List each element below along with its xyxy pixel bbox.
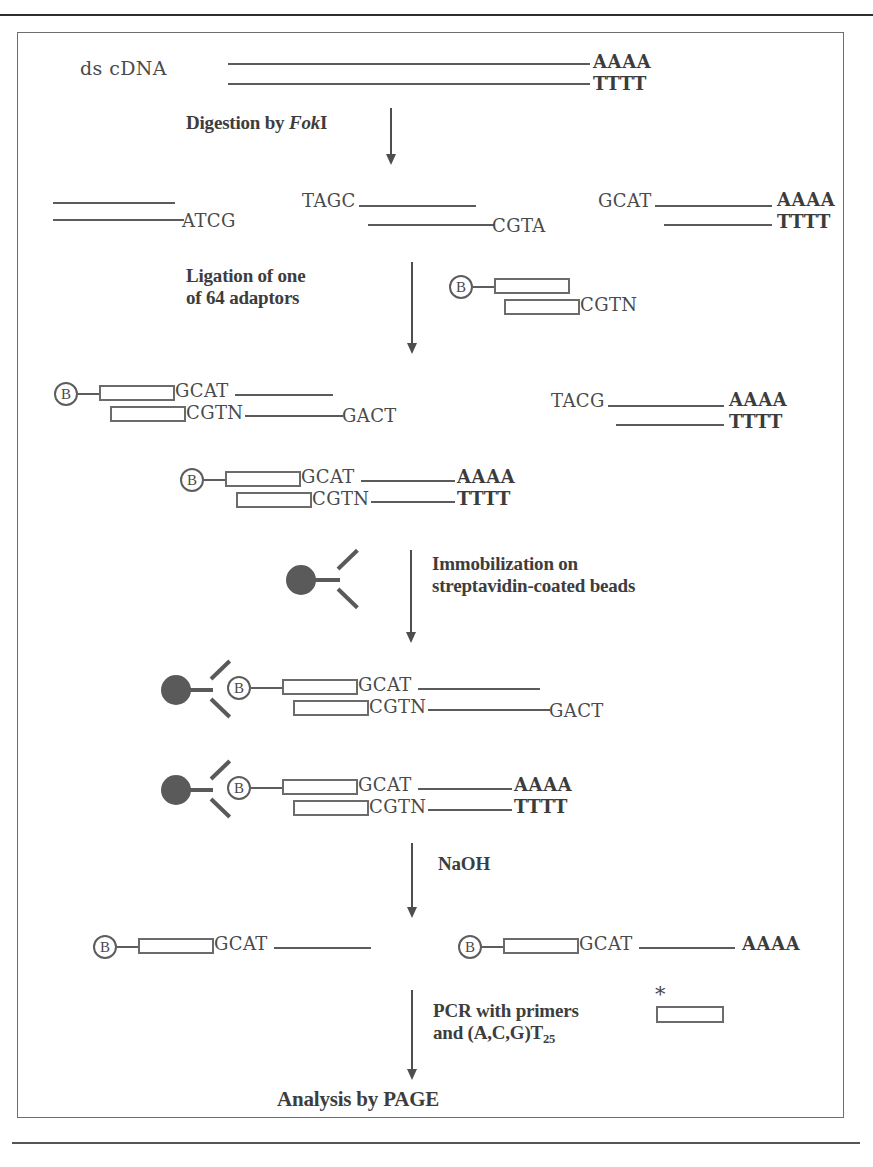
ligated-center-poly-t: TTTT [457, 488, 511, 509]
biotin-circle-ligated-left: B [54, 382, 78, 406]
biotin-linker-single-right [482, 946, 504, 948]
bead-icon [161, 775, 191, 805]
single-left-seq: GCAT [214, 933, 268, 954]
arrow-shaft-naoh [411, 843, 413, 909]
dscdna-bottom-strand [228, 83, 590, 85]
fragment-middle-top-strand [359, 205, 476, 207]
adaptor-rect-single-left [138, 938, 214, 954]
ligated-right-poly-a: AAAA [729, 389, 787, 410]
fragment-middle-overhang: CGTA [492, 215, 546, 236]
streptavidin-arm-lower [210, 698, 231, 719]
ligated-left-top-seq: GCAT [175, 380, 229, 401]
streptavidin-bead-symbol [286, 555, 372, 605]
adaptor-top-rect-immobilized-2 [282, 779, 358, 795]
streptavidin-arm-lower [210, 798, 231, 819]
biotin-linker-immobilized-1 [251, 687, 283, 689]
ligation-line-2: of 64 adaptors [186, 287, 299, 308]
single-right-seq: GCAT [579, 933, 633, 954]
step-label-digestion: Digestion by FokI [186, 112, 327, 134]
dscdna-poly-t-tail: TTTT [593, 73, 647, 94]
ligated-right-poly-t: TTTT [729, 411, 783, 432]
step-label-ligation: Ligation of oneof 64 adaptors [186, 265, 305, 310]
immobilized-1-bottom-seq: CGTN [369, 696, 427, 717]
biotin-linker-ligated-center [204, 479, 226, 481]
bottom-horizontal-rule [12, 1142, 860, 1144]
adaptor-top-rect-ligated-left [99, 385, 175, 401]
ligated-center-bottom-seq: CGTN [312, 488, 370, 509]
fragment-left-overhang: ATCG [182, 210, 236, 231]
fragment-right-top-strand [655, 205, 772, 207]
ligated-center-top-strand [361, 480, 455, 482]
biotin-linker-free-adaptor [473, 286, 495, 288]
adaptor-bottom-rect-immobilized-1 [293, 700, 369, 716]
ligated-right-top-strand [608, 405, 724, 407]
adaptor-bottom-rect-ligated-left [110, 406, 186, 422]
adaptor-top-rect-free [494, 278, 570, 294]
arrow-head-digestion [386, 154, 396, 165]
digestion-prefix: Digestion by [186, 112, 289, 133]
biotin-circle-single-left: B [93, 935, 117, 959]
immobilized-1-bottom-strand [428, 709, 550, 711]
immobilization-line-2: streptavidin-coated beads [432, 575, 635, 596]
single-left-strand [274, 947, 371, 949]
adaptor-top-rect-ligated-center [225, 471, 301, 487]
biotin-circle-immobilized-2: B [227, 776, 251, 800]
arrow-shaft-ligation [411, 262, 413, 345]
digestion-enzyme-roman: I [320, 112, 327, 133]
immobilization-line-1: Immobilization on [432, 553, 578, 574]
biotin-circle-single-right: B [458, 935, 482, 959]
ligated-center-bottom-strand [371, 501, 455, 503]
single-right-poly-a: AAAA [742, 933, 800, 954]
single-right-strand [639, 947, 735, 949]
primer-asterisk-icon: * [655, 982, 666, 1006]
ligated-right-head: TACG [551, 390, 605, 411]
arrow-head-ligation [407, 343, 417, 354]
biotin-linker-single-left [117, 946, 139, 948]
ligation-line-1: Ligation of one [186, 265, 305, 286]
dscdna-poly-a-tail: AAAA [593, 51, 651, 72]
fragment-right-head: GCAT [598, 190, 652, 211]
immobilized-1-top-strand [418, 688, 540, 690]
adaptor-rect-single-right [503, 938, 579, 954]
pcr-line-2-prefix: and (A,C,G)T [433, 1022, 543, 1043]
fragment-right-poly-a: AAAA [777, 189, 835, 210]
arrow-shaft-digestion [390, 108, 392, 156]
clipped-running-head [30, 0, 530, 9]
biotin-circle-ligated-center: B [180, 468, 204, 492]
adaptor-bottom-rect-immobilized-2 [293, 800, 369, 816]
biotin-circle-free-adaptor: B [449, 275, 473, 299]
biotin-linker-immobilized-2 [251, 787, 283, 789]
bead-icon [161, 675, 191, 705]
bead-icon [286, 565, 316, 595]
arrow-shaft-immobilization [410, 550, 412, 634]
streptavidin-stem [314, 578, 340, 582]
fragment-right-bottom-strand [664, 224, 772, 226]
biotin-circle-immobilized-1: B [227, 676, 251, 700]
streptavidin-stem [189, 788, 213, 792]
pcr-line-2-subscript: 25 [543, 1032, 555, 1046]
adaptor-free-overhang: CGTN [580, 294, 638, 315]
fragment-left-bottom-strand [53, 219, 184, 221]
ligated-center-top-seq: GCAT [301, 466, 355, 487]
fragment-middle-head: TAGC [302, 190, 356, 211]
immobilized-1-overhang: GACT [549, 700, 604, 721]
pcr-line-1: PCR with primers [433, 1000, 579, 1021]
immobilized-1-top-seq: GCAT [358, 674, 412, 695]
ligated-center-poly-a: AAAA [457, 466, 515, 487]
dscdna-top-strand [228, 63, 590, 65]
step-label-naoh: NaOH [438, 853, 490, 875]
step-label-immobilization: Immobilization onstreptavidin-coated bea… [432, 553, 635, 598]
primer-rect [656, 1006, 724, 1023]
immobilized-2-bottom-strand [428, 809, 512, 811]
adaptor-bottom-rect-free [504, 299, 580, 315]
arrow-head-naoh [407, 907, 417, 918]
immobilized-2-top-strand [418, 788, 512, 790]
ligated-left-overhang: GACT [342, 405, 397, 426]
adaptor-bottom-rect-ligated-center [236, 492, 312, 508]
step-label-pcr: PCR with primersand (A,C,G)T25 [433, 1000, 579, 1047]
adaptor-top-rect-immobilized-1 [282, 679, 358, 695]
arrow-head-immobilization [406, 632, 416, 643]
arrow-head-pcr [407, 1069, 417, 1080]
fragment-right-poly-t: TTTT [777, 211, 831, 232]
immobilized-2-poly-a: AAAA [514, 774, 572, 795]
